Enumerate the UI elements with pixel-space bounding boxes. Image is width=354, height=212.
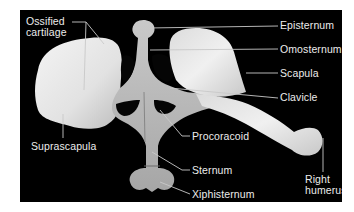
label-sternum: Sternum — [192, 165, 232, 176]
label-suprascapula: Suprascapula — [31, 141, 96, 152]
label-ossified-cartilage-line2: cartilage — [26, 27, 67, 38]
label-right-humerus-line2: humerus — [305, 185, 342, 196]
right-humerus-shape — [196, 94, 323, 156]
label-ossified-cartilage: Ossified cartilage — [26, 16, 67, 38]
label-xiphisternum: Xiphisternum — [192, 189, 254, 200]
figure-frame: Ossified cartilage Episternum Omosternum… — [0, 0, 354, 212]
label-procoracoid: Procoracoid — [192, 131, 249, 142]
label-omosternum: Omosternum — [280, 44, 342, 55]
left-suprascapula-shape — [35, 38, 122, 129]
label-scapula: Scapula — [280, 68, 319, 79]
specimen-illustration — [20, 10, 342, 202]
label-episternum: Episternum — [280, 20, 334, 31]
label-right-humerus: Right humerus — [305, 174, 342, 196]
right-scapula-shape — [169, 28, 246, 97]
specimen-photo: Ossified cartilage Episternum Omosternum… — [20, 10, 342, 202]
label-clavicle: Clavicle — [280, 92, 318, 103]
